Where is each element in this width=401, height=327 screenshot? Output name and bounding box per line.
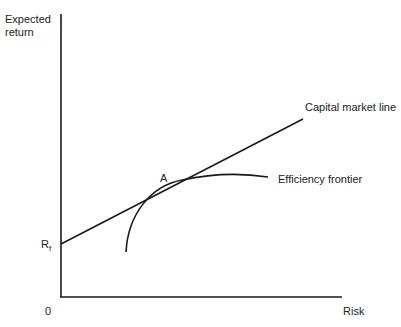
tangent-point-label: A <box>160 172 168 184</box>
origin-label: 0 <box>45 305 51 317</box>
y-axis-label-line2: return <box>5 26 34 38</box>
efficiency-frontier-curve <box>126 174 268 252</box>
x-axis-label: Risk <box>343 305 365 317</box>
efficiency-frontier-label: Efficiency frontier <box>278 173 363 185</box>
risk-free-rate-label: Rf <box>41 238 52 253</box>
y-axis-label-line1: Expected <box>5 13 51 25</box>
diagram-canvas: Expected return Risk 0 Rf A Capital mark… <box>0 0 401 327</box>
capital-market-line-label: Capital market line <box>305 101 396 113</box>
capital-market-line <box>61 119 303 244</box>
